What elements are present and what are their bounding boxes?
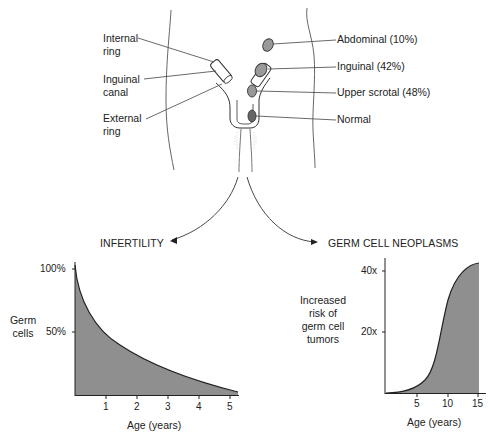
label-line: canal bbox=[103, 86, 140, 99]
ylabel-line: Germ bbox=[4, 314, 42, 327]
xtick-label-1: 1 bbox=[103, 401, 109, 412]
testis-abdominal bbox=[261, 37, 276, 53]
infertility-x-ticks bbox=[106, 396, 230, 399]
leader-inguinal bbox=[268, 67, 336, 69]
label-upper-scrotal: Upper scrotal (48%) bbox=[337, 86, 430, 99]
heading-infertility: INFERTILITY bbox=[100, 237, 164, 249]
ylabel-line: germ cell bbox=[296, 320, 350, 333]
ylabel-line: cells bbox=[4, 327, 42, 340]
xtick-label-4: 4 bbox=[196, 401, 202, 412]
label-line: ring bbox=[103, 45, 138, 58]
xtick-label-15y: 15 bbox=[472, 398, 483, 409]
infertility-chart bbox=[72, 262, 239, 399]
heading-germ-cell-neoplasms: GERM CELL NEOPLASMS bbox=[328, 237, 458, 249]
neoplasm-x-ticks bbox=[417, 394, 478, 397]
arrow-to-neoplasms bbox=[247, 177, 315, 242]
ytick-label-50: 50% bbox=[46, 326, 66, 337]
infertility-area bbox=[75, 265, 238, 395]
neoplasm-chart bbox=[382, 258, 486, 397]
label-line: Internal bbox=[103, 32, 138, 45]
body-contour-left bbox=[166, 10, 174, 170]
label-line: Inguinal bbox=[103, 73, 140, 86]
xtick-label-10y: 10 bbox=[442, 398, 453, 409]
label-abdominal: Abdominal (10%) bbox=[337, 33, 418, 46]
ytick-label-100: 100% bbox=[40, 263, 66, 274]
ylabel-line: tumors bbox=[296, 333, 350, 346]
leader-normal bbox=[256, 116, 336, 120]
label-internal-ring: Internal ring bbox=[103, 32, 138, 58]
ylabel-line: Increased bbox=[296, 294, 350, 307]
label-line: ring bbox=[103, 125, 142, 138]
neoplasm-area bbox=[386, 263, 479, 393]
diagram-canvas bbox=[0, 0, 496, 439]
leader-external-ring bbox=[146, 84, 222, 119]
neoplasm-ylabel: Increased risk of germ cell tumors bbox=[296, 294, 350, 346]
arrowhead-neoplasms bbox=[311, 239, 318, 245]
label-inguinal-canal: Inguinal canal bbox=[103, 73, 140, 99]
label-inguinal: Inguinal (42%) bbox=[337, 60, 405, 73]
xtick-label-3: 3 bbox=[165, 401, 171, 412]
infertility-xlabel: Age (years) bbox=[127, 419, 181, 432]
label-line: External bbox=[103, 112, 142, 125]
testis-normal bbox=[248, 110, 256, 122]
xtick-label-2: 2 bbox=[134, 401, 140, 412]
ylabel-line: risk of bbox=[296, 307, 350, 320]
ytick-label-20x: 20x bbox=[361, 326, 377, 337]
label-normal: Normal bbox=[337, 113, 371, 126]
body-contour-right bbox=[307, 8, 315, 168]
leader-upper-scrotal bbox=[257, 91, 336, 93]
infertility-ylabel: Germ cells bbox=[4, 314, 42, 340]
ytick-label-40x: 40x bbox=[361, 265, 377, 276]
xtick-label-5: 5 bbox=[227, 401, 233, 412]
label-external-ring: External ring bbox=[103, 112, 142, 138]
cord-right-line bbox=[250, 129, 252, 172]
inguinal-pathway-outline bbox=[216, 78, 270, 128]
xtick-label-5y: 5 bbox=[414, 398, 420, 409]
cord-hatch bbox=[235, 132, 256, 150]
arrowhead-infertility bbox=[170, 237, 177, 244]
leader-internal-ring bbox=[138, 38, 214, 62]
neoplasm-xlabel: Age (years) bbox=[407, 416, 461, 429]
arrow-to-infertility bbox=[172, 177, 238, 240]
leader-abdominal bbox=[273, 40, 336, 44]
cord-left-line bbox=[239, 129, 241, 172]
testis-upper-scrotal bbox=[248, 85, 257, 97]
leader-inguinal-canal bbox=[144, 71, 216, 79]
